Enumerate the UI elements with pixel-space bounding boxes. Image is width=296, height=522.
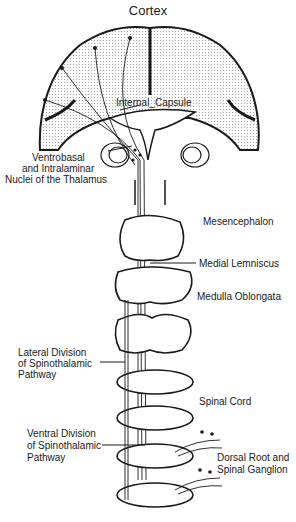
label-thalamus-2: and Intralaminar xyxy=(22,163,94,174)
label-thalamus-3: Nuclei of the Thalamus xyxy=(5,174,107,185)
label-medulla-oblongata: Medulla Oblongata xyxy=(197,291,281,302)
label-spinal-cord: Spinal Cord xyxy=(199,396,251,407)
label-internal-capsule: Internal_Capsule xyxy=(116,97,192,108)
label-mesencephalon: Mesencephalon xyxy=(203,216,274,227)
title-cortex: Cortex xyxy=(0,3,296,18)
mesencephalon-section xyxy=(120,215,184,260)
label-ventral-division-3: Pathway xyxy=(27,452,65,463)
upper-cord-section xyxy=(115,314,190,353)
label-lateral-division-1: Lateral Division xyxy=(18,347,86,358)
label-dorsal-root-1: Dorsal Root and xyxy=(217,452,289,463)
cross-sections xyxy=(115,215,193,507)
medulla-section xyxy=(115,267,191,304)
dorsal-roots xyxy=(175,440,222,494)
label-lateral-division-3: Pathway xyxy=(18,369,56,380)
label-dorsal-root-2: Spinal Ganglion xyxy=(217,464,288,475)
basal-ganglia xyxy=(101,143,209,167)
label-ventral-division-2: of Spinothalamic xyxy=(27,440,101,451)
lateral-ventricle xyxy=(110,110,195,160)
label-lateral-division-2: of Spinothalamic xyxy=(18,358,92,369)
label-medial-lemniscus: Medial Lemniscus xyxy=(199,258,279,269)
label-thalamus-1: Ventrobasal xyxy=(32,152,85,163)
label-ventral-division-1: Ventral Division xyxy=(27,428,96,439)
